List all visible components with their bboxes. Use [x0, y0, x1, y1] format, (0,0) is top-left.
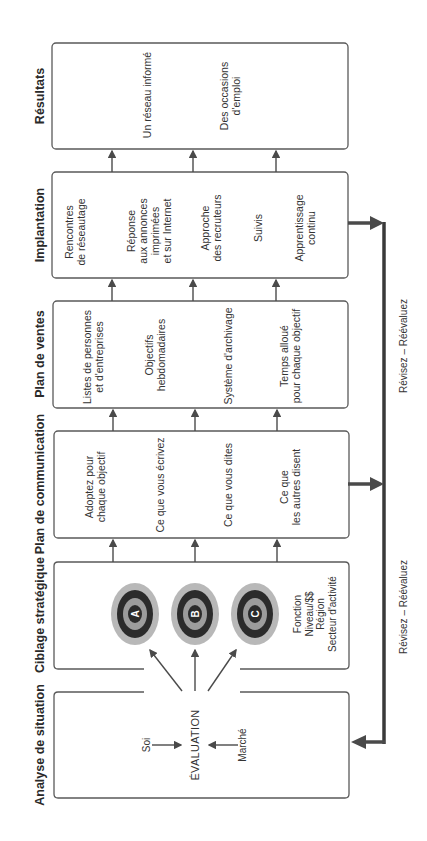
diagram-canvas — [0, 0, 427, 841]
input-marche: Marché — [237, 728, 249, 761]
feedback-label-lower: Révisez – Réévaluez — [398, 560, 410, 654]
implantation-item: Apprentissage continu — [293, 194, 317, 261]
heading-analyse-de-situation: Analyse de situation — [33, 684, 47, 806]
heading-resultats: Résultats — [33, 68, 47, 124]
implantation-item: Approche des recruteurs — [199, 194, 223, 261]
plan-de-communication-item: Ce que vous dites — [222, 443, 234, 527]
plan-de-communication-item: Ce que les autres disent — [278, 449, 302, 525]
resultats-item: Des occasions d'emploi — [218, 62, 242, 130]
heading-plan-de-communication: Plan de communication — [33, 414, 47, 554]
feedback-loop — [348, 216, 385, 749]
plan-de-communication-item: Adoptez pour chaque objectif — [83, 452, 107, 523]
input-soi: Soi — [141, 738, 153, 752]
targeting-criteria: Fonction Niveau/$$ Région Secteur d'acti… — [292, 576, 338, 652]
heading-plan-de-ventes: Plan de ventes — [33, 310, 47, 398]
target-c-label: C — [250, 610, 261, 617]
implantation-item: Rencontres de réseautage — [63, 198, 87, 265]
evaluation-label: ÉVALUATION — [189, 709, 202, 780]
implantation-item: Réponse aux annonces imprimées et sur In… — [125, 198, 173, 263]
box-resultats — [52, 43, 348, 149]
plan-de-ventes-item: Listes de personnes et d'entreprises — [81, 310, 105, 404]
implantation-item: Suivis — [252, 214, 264, 242]
target-a-label: A — [130, 610, 141, 617]
evaluation-to-targets-arrows — [150, 650, 236, 691]
heading-implantation: Implantation — [33, 188, 47, 262]
plan-de-ventes-item: Objectifs hebdomadaires — [143, 319, 167, 391]
plan-de-ventes-item: Temps alloué pour chaque objectif — [278, 309, 302, 404]
resultats-item: Un réseau informé — [141, 52, 153, 138]
plan-de-communication-item: Ce que vous écrivez — [154, 437, 166, 532]
feedback-label-upper: Révisez – Réévaluez — [398, 299, 410, 393]
box-analyse-de-situation — [54, 692, 349, 798]
heading-ciblage-strategique: Ciblage stratégique — [33, 557, 47, 673]
target-b-label: B — [190, 610, 201, 617]
plan-de-ventes-item: Système d'archivage — [222, 307, 234, 404]
